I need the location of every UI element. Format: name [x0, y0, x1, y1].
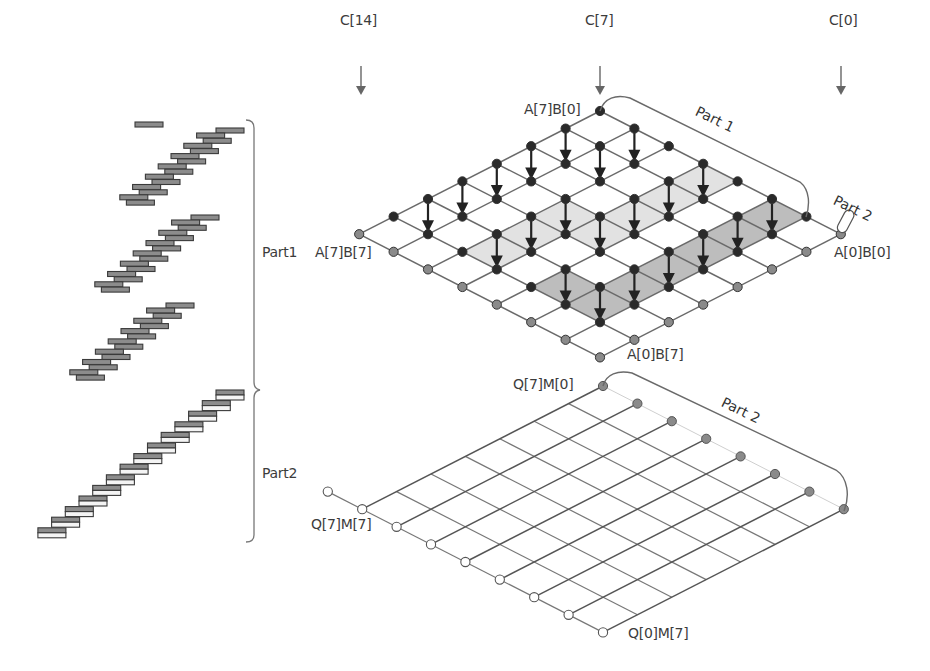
- partial-product-bar: [106, 475, 134, 480]
- bottom-grid-line: [569, 404, 810, 527]
- q0m7-label: Q[0]M[7]: [628, 625, 688, 641]
- partial-product-bar: [140, 256, 168, 261]
- partial-product-bar: [146, 241, 174, 246]
- partial-product-bar: [191, 215, 219, 220]
- carry-bar: [38, 533, 66, 538]
- carry-bar: [202, 406, 230, 411]
- black-node: [630, 230, 639, 239]
- black-node: [561, 300, 570, 309]
- black-node: [595, 318, 604, 327]
- carry-bar: [65, 512, 93, 517]
- carry-bar: [134, 459, 162, 464]
- grey-node: [664, 318, 673, 327]
- black-node: [664, 282, 673, 291]
- white-node: [358, 505, 367, 514]
- grey-node: [355, 230, 364, 239]
- white-node: [392, 522, 401, 531]
- black-node: [492, 159, 501, 168]
- black-node: [561, 124, 570, 133]
- partial-product-bar: [134, 454, 162, 459]
- white-node: [426, 540, 435, 549]
- grey-node: [699, 300, 708, 309]
- part-braces: [246, 120, 260, 542]
- black-node: [664, 247, 673, 256]
- black-node: [527, 282, 536, 291]
- partial-product-bar: [152, 180, 180, 185]
- carry-bar: [175, 427, 203, 432]
- partial-product-bar: [65, 507, 93, 512]
- black-node: [458, 212, 467, 221]
- partial-product-bar: [172, 220, 200, 225]
- grey-node: [423, 265, 432, 274]
- grey-node: [802, 247, 811, 256]
- carry-bar: [79, 501, 107, 506]
- bottom-grid-line: [431, 421, 672, 544]
- partial-product-bar: [166, 303, 194, 308]
- white-node: [530, 593, 539, 602]
- partial-product-bar: [178, 159, 206, 164]
- black-node: [527, 247, 536, 256]
- partial-product-bar: [161, 432, 189, 437]
- partial-product-bar: [101, 287, 129, 292]
- part1-brace-label: Part1: [262, 244, 297, 260]
- partial-product-bar: [202, 401, 230, 406]
- black-node: [492, 265, 501, 274]
- carry-bar: [93, 490, 121, 495]
- black-node: [630, 159, 639, 168]
- multiplier-diagram: [0, 0, 930, 671]
- bottom-grid-line: [431, 474, 672, 597]
- partial-product-bar: [133, 251, 161, 256]
- carry-bar: [189, 416, 217, 421]
- partial-product-bar: [93, 485, 121, 490]
- grey-node: [770, 469, 779, 478]
- black-node: [527, 177, 536, 186]
- grey-node: [767, 265, 776, 274]
- black-node: [699, 159, 708, 168]
- part1-brace: [246, 120, 260, 542]
- bottom-grid-nodes: [323, 381, 848, 637]
- black-node: [664, 177, 673, 186]
- grey-node: [667, 417, 676, 426]
- partial-product-bar: [95, 349, 123, 354]
- grey-node: [595, 353, 604, 362]
- partial-product-bar: [114, 277, 142, 282]
- black-node: [767, 230, 776, 239]
- black-node: [595, 282, 604, 291]
- black-node: [664, 142, 673, 151]
- bottom-grid-line: [534, 421, 775, 544]
- bottom-grid-line: [465, 456, 706, 579]
- partial-product-bar: [139, 190, 167, 195]
- a0b0-label: A[0]B[0]: [834, 244, 890, 260]
- partial-product-bar: [126, 200, 154, 205]
- bottom-grid-line: [534, 474, 775, 597]
- black-node: [389, 212, 398, 221]
- partial-product-bar: [165, 236, 193, 241]
- c14-label: C[14]: [340, 12, 377, 28]
- bottom-grid-line: [500, 439, 741, 562]
- partial-product-bar: [216, 390, 244, 395]
- partial-product-bar: [70, 370, 98, 375]
- black-node: [630, 194, 639, 203]
- a7b7-label: A[7]B[7]: [315, 244, 371, 260]
- grey-node: [839, 505, 848, 514]
- partial-product-bar: [158, 164, 186, 169]
- black-node: [595, 212, 604, 221]
- white-node: [598, 628, 607, 637]
- partial-product-bar: [147, 308, 175, 313]
- partial-product-bar: [184, 143, 212, 148]
- black-node: [458, 247, 467, 256]
- down-arrow-icon: [836, 86, 846, 95]
- partial-product-bar: [89, 365, 117, 370]
- black-node: [699, 230, 708, 239]
- down-arrow-icon: [595, 86, 605, 95]
- partial-product-bar: [83, 360, 111, 365]
- carry-bar: [161, 437, 189, 442]
- partial-product-bar: [120, 464, 148, 469]
- bottom-grid-line: [362, 386, 603, 509]
- black-node: [733, 177, 742, 186]
- partial-product-bar: [197, 133, 225, 138]
- partial-product-bar: [148, 443, 176, 448]
- partial-product-bar: [120, 195, 148, 200]
- down-arrow-icon: [356, 86, 366, 95]
- partial-product-bar: [121, 329, 149, 334]
